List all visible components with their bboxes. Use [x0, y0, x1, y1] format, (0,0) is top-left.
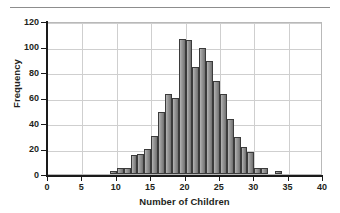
histogram-bar [117, 168, 124, 174]
x-axis-tick [47, 176, 48, 181]
y-axis-tick [41, 22, 46, 23]
y-axis-tick [41, 99, 46, 100]
x-axis-tick-label: 20 [172, 183, 198, 192]
histogram-bar [144, 149, 151, 175]
x-axis-tick-label: 10 [103, 183, 129, 192]
histogram-bar [137, 154, 144, 174]
histogram-bar [124, 168, 131, 174]
histogram-bar [199, 48, 206, 174]
y-axis-tick-label: 60 [9, 94, 39, 103]
x-axis-tick-label: 15 [137, 183, 163, 192]
y-axis-title: Frequency [11, 44, 22, 124]
histogram-bar [213, 81, 220, 174]
y-axis-tick [41, 124, 46, 125]
histogram-bar [275, 171, 282, 174]
histogram-bar [206, 61, 213, 174]
plot-area [47, 22, 322, 175]
y-axis-tick [41, 73, 46, 74]
y-axis-line [46, 21, 48, 176]
gridline-vertical [254, 23, 255, 174]
histogram-bar [261, 168, 268, 174]
histogram-bar [165, 94, 172, 174]
x-axis-tick-label: 35 [275, 183, 301, 192]
y-axis-tick-label: 40 [9, 120, 39, 129]
x-axis-tick [219, 176, 220, 181]
histogram-bar [247, 152, 254, 174]
histogram-figure: Frequency 020406080100120 05101520253035… [0, 0, 340, 213]
x-axis-tick [150, 176, 151, 181]
x-axis-tick [253, 176, 254, 181]
histogram-bar [131, 155, 138, 174]
y-axis-tick [41, 48, 46, 49]
x-axis-tick [116, 176, 117, 181]
y-axis-tick-label: 80 [9, 69, 39, 78]
histogram-bar [241, 147, 248, 174]
header-rule [10, 7, 330, 8]
y-axis-tick-label: 120 [9, 18, 39, 27]
histogram-bar [234, 137, 241, 174]
y-axis-tick [41, 175, 46, 176]
x-axis-tick [185, 176, 186, 181]
x-axis-tick-label: 40 [309, 183, 335, 192]
histogram-bar [186, 40, 193, 174]
histogram-bar [254, 168, 261, 174]
histogram-bar [151, 136, 158, 174]
x-axis-tick [288, 176, 289, 181]
x-axis-tick-label: 0 [34, 183, 60, 192]
x-axis-tick-label: 25 [206, 183, 232, 192]
histogram-bar [227, 119, 234, 174]
x-axis-tick-label: 5 [68, 183, 94, 192]
x-axis-tick [322, 176, 323, 181]
x-axis-tick [81, 176, 82, 181]
gridline-vertical [289, 23, 290, 174]
histogram-bar [172, 98, 179, 175]
histogram-bar [192, 67, 199, 174]
gridline-vertical [117, 23, 118, 174]
gridline-vertical [82, 23, 83, 174]
y-axis-tick-label: 100 [9, 43, 39, 52]
histogram-bar [220, 94, 227, 174]
y-axis-tick-label: 20 [9, 145, 39, 154]
y-axis-tick-label: 0 [9, 171, 39, 180]
x-axis-title: Number of Children [47, 196, 322, 207]
histogram-bar [179, 39, 186, 174]
y-axis-tick [41, 150, 46, 151]
x-axis-tick-label: 30 [240, 183, 266, 192]
histogram-bar [110, 171, 117, 174]
gridline-horizontal [48, 23, 321, 24]
histogram-bar [158, 112, 165, 174]
